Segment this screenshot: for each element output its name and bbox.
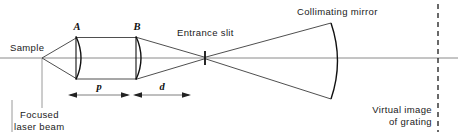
- virtual-image-label-line2: of grating: [389, 116, 432, 127]
- collimating-mirror-label: Collimating mirror: [297, 6, 378, 17]
- focused-laser-beam-label-line1: Focused: [20, 109, 59, 120]
- dimension-p-right-arrowhead: [121, 92, 130, 98]
- lens-a-label: A: [72, 21, 80, 32]
- focused-laser-beam-label-line2: laser beam: [14, 121, 65, 132]
- lens-b-label: B: [132, 21, 140, 32]
- sample-label: Sample: [10, 42, 44, 53]
- dimension-d-left-arrowhead: [133, 92, 142, 98]
- dimension-d-right-arrowhead: [182, 92, 191, 98]
- entrance-slit-label: Entrance slit: [177, 27, 234, 38]
- ray-lower-b-slit: [137, 59, 205, 79]
- dimension-p-label: p: [95, 81, 101, 92]
- collimating-mirror: [331, 23, 338, 99]
- ray-upper-sample-a: [42, 38, 77, 59]
- dimension-d: d: [133, 81, 191, 98]
- optical-diagram-figure: p d Sample A B Entrance slit Collimating…: [0, 0, 458, 136]
- virtual-image-label-line1: Virtual image: [372, 104, 432, 115]
- dimension-d-label: d: [159, 81, 165, 92]
- dimension-p-left-arrowhead: [68, 92, 77, 98]
- collimating-mirror-surface: [331, 23, 338, 99]
- diagram-canvas: p d Sample A B Entrance slit Collimating…: [0, 0, 458, 136]
- ray-lower-slit-mirror: [205, 59, 331, 99]
- ray-lower-sample-a: [42, 58, 77, 79]
- ray-upper-b-slit: [137, 38, 205, 58]
- dimension-p: p: [68, 81, 130, 98]
